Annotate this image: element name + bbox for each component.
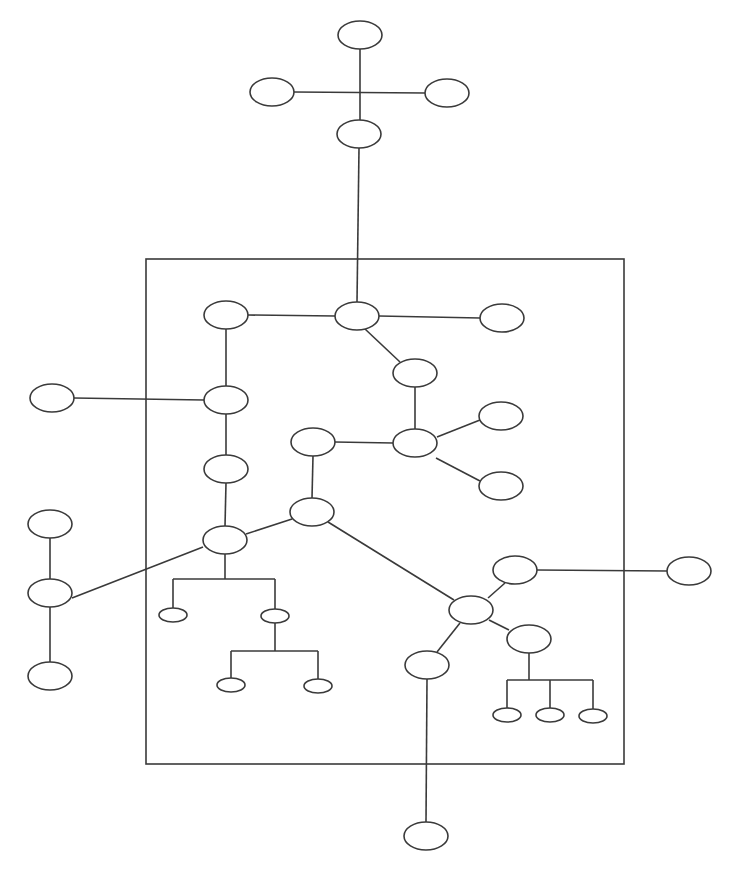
node-ellipse: [28, 662, 72, 690]
node-ellipse: [479, 472, 523, 500]
node-ellipse: [28, 579, 72, 607]
node-ellipse: [579, 709, 607, 723]
node-ellipse: [261, 609, 289, 623]
edge-line: [312, 456, 313, 498]
node-ellipse: [536, 708, 564, 722]
node-ellipse: [217, 678, 245, 692]
edge-line: [357, 148, 359, 302]
node-ellipse: [290, 498, 334, 526]
edge-line: [328, 522, 454, 600]
node-ellipse: [338, 21, 382, 49]
node-ellipse: [204, 386, 248, 414]
node-ellipse: [203, 526, 247, 554]
edge-line: [225, 483, 226, 526]
node-ellipse: [393, 429, 437, 457]
node-ellipse: [159, 608, 187, 622]
node-ellipse: [479, 402, 523, 430]
edge-line: [294, 92, 425, 93]
node-ellipse: [393, 359, 437, 387]
node-ellipse: [304, 679, 332, 693]
node-ellipse: [493, 556, 537, 584]
node-ellipse: [425, 79, 469, 107]
edge-line: [437, 420, 480, 437]
diagram-svg: [0, 0, 737, 881]
node-ellipse: [30, 384, 74, 412]
edge-line: [72, 547, 203, 598]
edge-line: [365, 329, 400, 362]
node-ellipse: [507, 625, 551, 653]
node-ellipse: [291, 428, 335, 456]
edges: [50, 49, 667, 822]
edge-line: [248, 315, 335, 316]
node-ellipse: [405, 651, 449, 679]
edge-line: [379, 316, 480, 318]
network-diagram: [0, 0, 737, 881]
edge-line: [246, 519, 292, 534]
node-ellipse: [667, 557, 711, 585]
edge-line: [489, 620, 509, 630]
edge-line: [426, 679, 427, 822]
node-ellipse: [204, 455, 248, 483]
edge-line: [488, 583, 505, 598]
edge-line: [436, 458, 480, 481]
nodes: [28, 21, 711, 850]
node-ellipse: [493, 708, 521, 722]
node-ellipse: [250, 78, 294, 106]
edge-line: [335, 442, 393, 443]
node-ellipse: [204, 301, 248, 329]
node-ellipse: [28, 510, 72, 538]
edge-line: [437, 623, 460, 652]
node-ellipse: [337, 120, 381, 148]
node-ellipse: [335, 302, 379, 330]
node-ellipse: [449, 596, 493, 624]
node-ellipse: [404, 822, 448, 850]
node-ellipse: [480, 304, 524, 332]
edge-line: [74, 398, 204, 400]
edge-line: [537, 570, 667, 571]
